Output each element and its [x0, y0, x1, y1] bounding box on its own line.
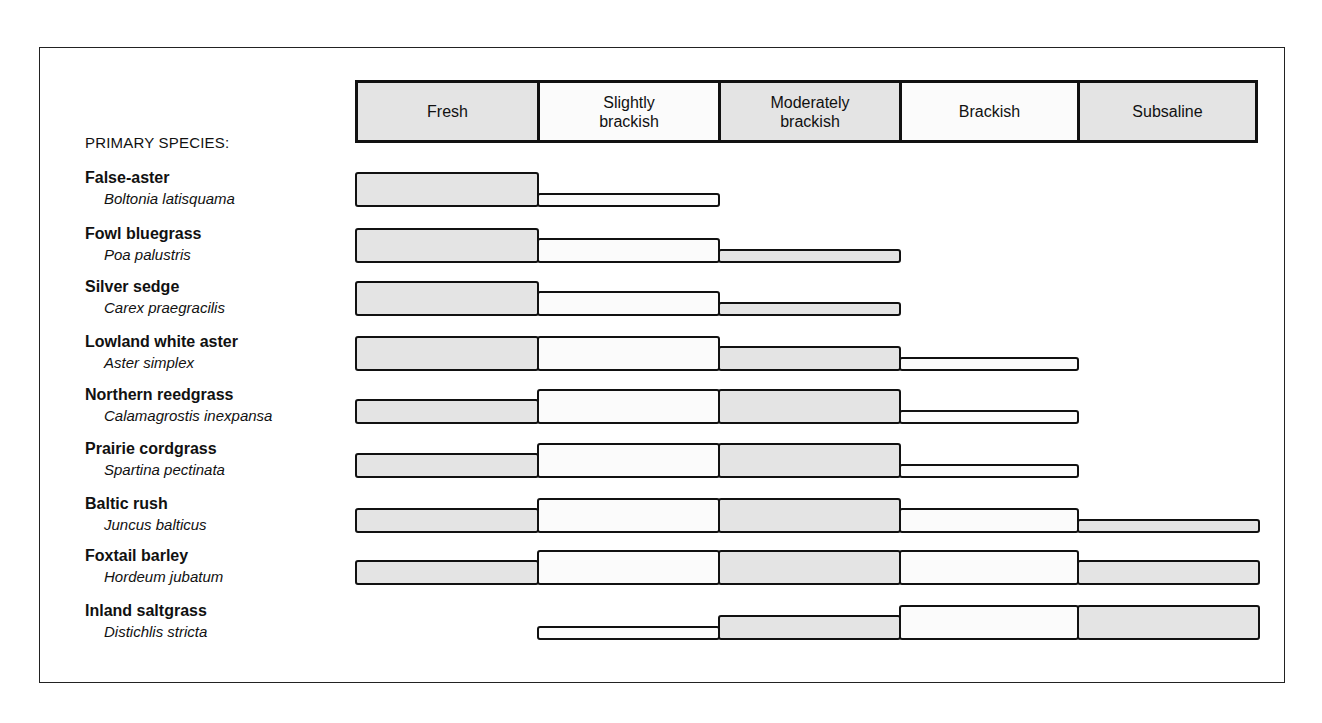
- species-scientific-name: Aster simplex: [104, 354, 194, 371]
- species-common-name: Fowl bluegrass: [85, 225, 201, 243]
- abundance-bar-segment: [355, 560, 539, 585]
- abundance-bar-segment: [537, 550, 720, 585]
- zone-header-label: Moderatelybrackish: [770, 93, 849, 131]
- abundance-bar-segment: [537, 626, 720, 640]
- zone-header-3: Moderatelybrackish: [718, 80, 899, 143]
- abundance-bar-segment: [718, 615, 901, 640]
- zone-header-label: Brackish: [959, 102, 1020, 121]
- species-common-name: Silver sedge: [85, 278, 179, 296]
- abundance-bar-segment: [899, 508, 1079, 533]
- abundance-bar-segment: [718, 550, 901, 585]
- zone-header-1: Fresh: [355, 80, 537, 143]
- species-scientific-name: Hordeum jubatum: [104, 568, 223, 585]
- species-common-name: False-aster: [85, 169, 170, 187]
- abundance-bar-segment: [899, 357, 1079, 371]
- species-common-name: Prairie cordgrass: [85, 440, 217, 458]
- abundance-bar-segment: [718, 498, 901, 533]
- abundance-bar-segment: [537, 291, 720, 316]
- abundance-bar-segment: [899, 464, 1079, 478]
- species-scientific-name: Spartina pectinata: [104, 461, 225, 478]
- abundance-bar-segment: [537, 336, 720, 371]
- species-scientific-name: Juncus balticus: [104, 516, 207, 533]
- zone-header-label: Subsaline: [1132, 102, 1202, 121]
- abundance-bar-segment: [718, 389, 901, 424]
- species-common-name: Northern reedgrass: [85, 386, 234, 404]
- zone-header-4: Brackish: [899, 80, 1077, 143]
- primary-species-label: PRIMARY SPECIES:: [85, 134, 229, 151]
- abundance-bar-segment: [537, 498, 720, 533]
- abundance-bar-segment: [718, 346, 901, 371]
- zone-header-label: Slightlybrackish: [599, 93, 659, 131]
- abundance-bar-segment: [899, 410, 1079, 424]
- abundance-bar-segment: [355, 281, 539, 316]
- species-common-name: Baltic rush: [85, 495, 168, 513]
- species-common-name: Lowland white aster: [85, 333, 238, 351]
- abundance-bar-segment: [899, 605, 1079, 640]
- species-scientific-name: Boltonia latisquama: [104, 190, 235, 207]
- species-scientific-name: Distichlis stricta: [104, 623, 207, 640]
- abundance-bar-segment: [537, 389, 720, 424]
- zone-header-2: Slightlybrackish: [537, 80, 718, 143]
- abundance-bar-segment: [537, 238, 720, 263]
- abundance-bar-segment: [1077, 560, 1260, 585]
- abundance-bar-segment: [355, 508, 539, 533]
- abundance-bar-segment: [1077, 605, 1260, 640]
- species-scientific-name: Carex praegracilis: [104, 299, 225, 316]
- abundance-bar-segment: [718, 443, 901, 478]
- abundance-bar-segment: [718, 302, 901, 316]
- abundance-bar-segment: [355, 399, 539, 424]
- abundance-bar-segment: [899, 550, 1079, 585]
- species-scientific-name: Poa palustris: [104, 246, 191, 263]
- abundance-bar-segment: [355, 228, 539, 263]
- abundance-bar-segment: [355, 172, 539, 207]
- abundance-bar-segment: [355, 453, 539, 478]
- species-scientific-name: Calamagrostis inexpansa: [104, 407, 272, 424]
- abundance-bar-segment: [1077, 519, 1260, 533]
- species-common-name: Inland saltgrass: [85, 602, 207, 620]
- abundance-bar-segment: [718, 249, 901, 263]
- abundance-bar-segment: [537, 443, 720, 478]
- zone-header-label: Fresh: [427, 102, 468, 121]
- abundance-bar-segment: [537, 193, 720, 207]
- zone-header-5: Subsaline: [1077, 80, 1258, 143]
- species-common-name: Foxtail barley: [85, 547, 188, 565]
- abundance-bar-segment: [355, 336, 539, 371]
